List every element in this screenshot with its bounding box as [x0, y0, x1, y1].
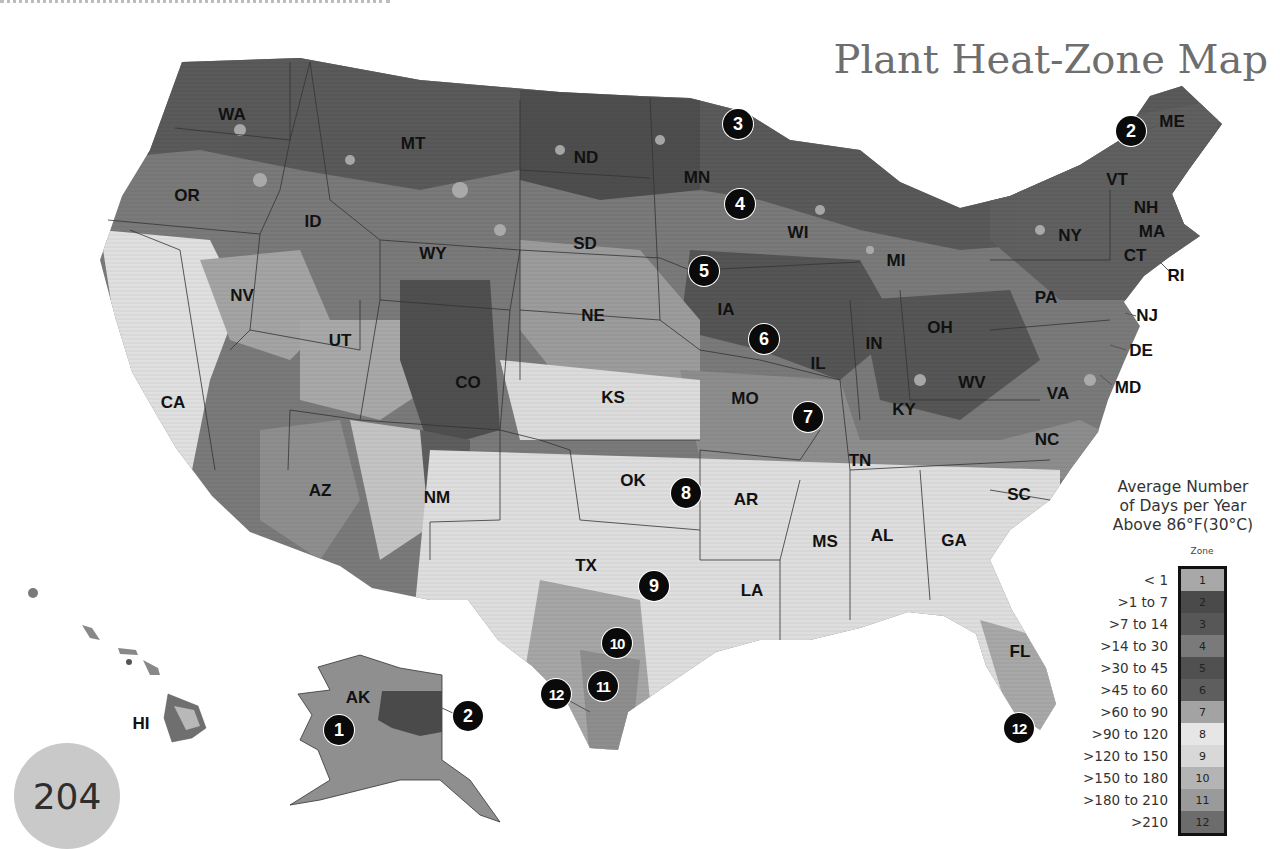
state-label-ma: MA	[1139, 222, 1165, 242]
state-label-ut: UT	[329, 331, 352, 351]
legend-swatch-zone-4: 4	[1181, 635, 1224, 657]
legend-title-line: Above 86°F(30°C)	[1088, 516, 1278, 535]
state-label-de: DE	[1129, 341, 1153, 361]
state-label-or: OR	[174, 186, 200, 206]
zone-marker-10: 10	[602, 628, 632, 658]
state-label-ct: CT	[1124, 246, 1147, 266]
legend-range-label: >1 to 7	[1083, 591, 1168, 613]
zone-marker-6: 6	[749, 324, 779, 354]
state-label-mi: MI	[887, 251, 906, 271]
state-label-oh: OH	[927, 318, 953, 338]
state-label-va: VA	[1047, 384, 1069, 404]
legend-range-label: >90 to 120	[1083, 723, 1168, 745]
state-label-me: ME	[1159, 112, 1185, 132]
zone-marker-12: 12	[541, 679, 571, 709]
state-label-hi: HI	[133, 714, 150, 734]
legend-title: Average Number of Days per Year Above 86…	[1088, 478, 1278, 535]
state-label-tn: TN	[849, 451, 872, 471]
zone-marker-5: 5	[689, 256, 719, 286]
state-label-in: IN	[866, 334, 883, 354]
state-label-pa: PA	[1035, 288, 1057, 308]
legend-range-label: >150 to 180	[1083, 767, 1168, 789]
legend-swatch-zone-10: 10	[1181, 767, 1224, 789]
state-label-wv: WV	[958, 373, 985, 393]
state-label-nj: NJ	[1136, 306, 1158, 326]
state-label-nd: ND	[574, 148, 599, 168]
state-label-ne: NE	[581, 306, 605, 326]
zone-marker-1: 1	[324, 715, 354, 745]
state-label-nv: NV	[230, 286, 254, 306]
state-label-wi: WI	[788, 223, 809, 243]
hawaii-inset	[28, 588, 206, 742]
state-label-ar: AR	[734, 490, 759, 510]
zone-marker-2: 2	[453, 701, 483, 731]
state-label-ri: RI	[1168, 266, 1185, 286]
legend-swatch-zone-1: 1	[1181, 569, 1224, 591]
state-label-nc: NC	[1035, 430, 1060, 450]
state-label-al: AL	[871, 526, 894, 546]
legend-swatch-zone-2: 2	[1181, 591, 1224, 613]
zone-marker-9: 9	[639, 571, 669, 601]
state-label-ms: MS	[812, 532, 838, 552]
state-label-nh: NH	[1134, 198, 1159, 218]
state-label-il: IL	[810, 354, 825, 374]
state-label-ok: OK	[620, 471, 646, 491]
state-label-sc: SC	[1007, 485, 1031, 505]
state-label-la: LA	[741, 581, 764, 601]
legend-title-line: of Days per Year	[1088, 497, 1278, 516]
legend-range-label: >45 to 60	[1083, 679, 1168, 701]
legend-range-label: >60 to 90	[1083, 701, 1168, 723]
state-label-wa: WA	[218, 105, 245, 125]
legend-swatch-zone-7: 7	[1181, 701, 1224, 723]
zone-marker-7: 7	[793, 402, 823, 432]
legend-range-label: < 1	[1083, 569, 1168, 591]
legend-zone-header: Zone	[1184, 546, 1220, 556]
state-label-az: AZ	[309, 481, 332, 501]
legend-swatch-zone-9: 9	[1181, 745, 1224, 767]
state-label-wy: WY	[419, 244, 446, 264]
legend-swatches: 123456789101112	[1178, 566, 1227, 836]
state-label-mo: MO	[731, 389, 758, 409]
legend-swatch-zone-6: 6	[1181, 679, 1224, 701]
page-number-badge: 204	[14, 743, 120, 849]
zone-marker-12: 12	[1004, 713, 1034, 743]
state-label-nm: NM	[424, 488, 450, 508]
state-label-ks: KS	[601, 388, 625, 408]
zone-marker-11: 11	[588, 671, 618, 701]
state-label-mt: MT	[401, 134, 426, 154]
state-label-ia: IA	[718, 300, 735, 320]
legend-swatch-zone-11: 11	[1181, 789, 1224, 811]
legend-range-label: >14 to 30	[1083, 635, 1168, 657]
state-label-id: ID	[305, 212, 322, 232]
zone-marker-2: 2	[1116, 116, 1146, 146]
legend-swatch-zone-8: 8	[1181, 723, 1224, 745]
alaska-inset	[290, 655, 500, 822]
state-label-co: CO	[455, 373, 481, 393]
state-label-md: MD	[1115, 378, 1141, 398]
state-label-fl: FL	[1010, 642, 1031, 662]
legend-swatch-zone-3: 3	[1181, 613, 1224, 635]
state-label-mn: MN	[684, 168, 710, 188]
zone-marker-3: 3	[723, 109, 753, 139]
zone-marker-8: 8	[671, 478, 701, 508]
zone-marker-4: 4	[725, 189, 755, 219]
state-label-sd: SD	[573, 234, 597, 254]
legend-swatch-zone-12: 12	[1181, 811, 1224, 833]
legend-swatch-zone-5: 5	[1181, 657, 1224, 679]
contiguous-us	[90, 50, 1240, 770]
state-label-ga: GA	[941, 531, 967, 551]
legend-title-line: Average Number	[1088, 478, 1278, 497]
legend-range-label: >7 to 14	[1083, 613, 1168, 635]
state-label-ak: AK	[346, 688, 371, 708]
legend-range-label: >210	[1083, 811, 1168, 833]
state-label-ca: CA	[161, 393, 186, 413]
legend-range-label: >120 to 150	[1083, 745, 1168, 767]
state-label-ny: NY	[1058, 226, 1082, 246]
legend-range-label: >30 to 45	[1083, 657, 1168, 679]
state-label-vt: VT	[1106, 170, 1128, 190]
legend-range-label: >180 to 210	[1083, 789, 1168, 811]
state-label-ky: KY	[892, 400, 916, 420]
legend-range-labels: < 1>1 to 7>7 to 14>14 to 30>30 to 45>45 …	[1083, 569, 1168, 833]
state-label-tx: TX	[575, 556, 597, 576]
